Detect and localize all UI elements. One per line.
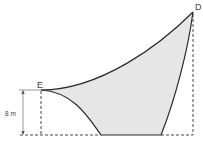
- arrowhead-down-icon: [21, 131, 24, 135]
- dimension-label: 8 m: [5, 110, 16, 117]
- arrowhead-up-icon: [21, 90, 24, 94]
- label-e: E: [37, 80, 43, 90]
- sail-diagram: E D 8 m: [0, 0, 203, 163]
- sail-shape: [41, 12, 193, 135]
- label-d: D: [195, 2, 202, 12]
